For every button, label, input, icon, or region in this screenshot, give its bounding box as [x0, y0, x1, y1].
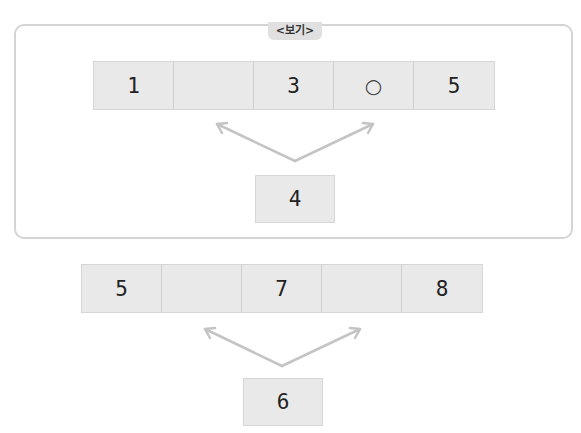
- example-arrow-left-icon: [217, 123, 295, 161]
- example-arrow-right-icon: [295, 123, 373, 161]
- arrows-layer: [0, 0, 581, 433]
- problem-arrow-right-icon: [282, 328, 360, 366]
- problem-arrow-left-icon: [205, 328, 282, 366]
